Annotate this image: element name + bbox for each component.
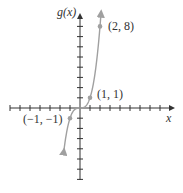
x-axis	[10, 105, 172, 111]
x-axis-label: x	[166, 111, 171, 126]
point-label-2-8: (2, 8)	[108, 19, 134, 34]
chart-canvas	[0, 0, 183, 193]
cubic-curve	[64, 14, 101, 152]
y-axis	[77, 16, 83, 180]
point-label-neg1-neg1: (−1, −1)	[23, 112, 63, 127]
point-label-1-1: (1, 1)	[97, 87, 123, 102]
y-axis-label: g(x)	[57, 5, 76, 20]
